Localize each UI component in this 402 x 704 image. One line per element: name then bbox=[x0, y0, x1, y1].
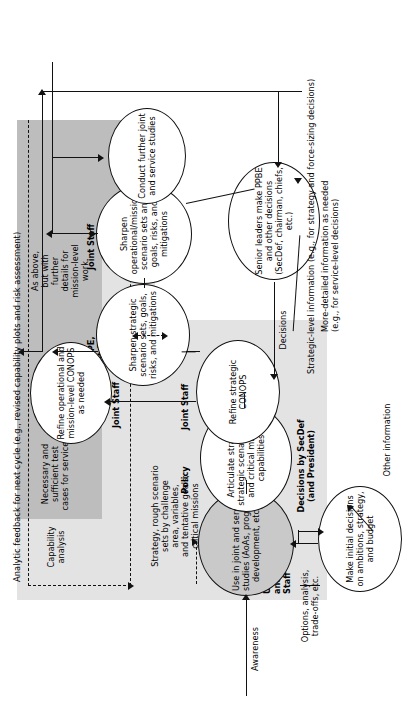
node-refine-operational-conops[interactable]: Refine operational and mission-level CON… bbox=[30, 342, 112, 444]
connector-use-to-articulate bbox=[246, 480, 247, 494]
node-senior-leaders-label: Senior leaders make PPBE and other decis… bbox=[254, 163, 294, 279]
connector-top-rail-drop bbox=[42, 91, 300, 92]
annotation-more-detailed: More-detailed information as needed (e.g… bbox=[320, 108, 340, 332]
node-conduct-further-studies[interactable]: Conduct further joint and service studie… bbox=[108, 108, 186, 204]
connector-decisions-to-use-arrowhead bbox=[290, 540, 296, 548]
annotation-as-above: As above, but with further details for m… bbox=[30, 233, 90, 309]
actor-joint-staff-1: Joint Staff bbox=[180, 380, 190, 434]
annotation-necessary-sufficient: Necessary and sufficient test cases for … bbox=[40, 434, 70, 514]
connector-refine-to-sharpen-v bbox=[186, 351, 200, 352]
connector-sharpen-op-to-strategic bbox=[144, 278, 145, 288]
connector-sharpen-strategic-riser-2 bbox=[24, 351, 42, 352]
annotation-decisions: Decisions bbox=[278, 300, 288, 360]
connector-sharpen-dashed bbox=[138, 335, 164, 336]
node-refine-strategic-conops-label: Refine strategic CONOPS bbox=[228, 341, 248, 443]
connector-conduct-riser bbox=[52, 157, 98, 158]
actor-policy: Policy bbox=[180, 460, 190, 500]
connector-strategy-rough-dashed bbox=[196, 542, 197, 584]
connector-options-to-decisions-arrowhead bbox=[318, 528, 324, 536]
analytic-feedback-arrowhead bbox=[128, 582, 134, 590]
annotation-decisions-by-secdef: Decisions by SecDef (and President) bbox=[296, 408, 316, 524]
connector-sharpen-op-down bbox=[90, 230, 96, 238]
annotation-awareness: Awareness bbox=[250, 614, 260, 684]
actor-joint-staff-2: Joint Staff bbox=[111, 378, 121, 432]
node-refine-operational-conops-label: Refine operational and mission-level CON… bbox=[56, 343, 86, 443]
annotation-strategy-rough-scenario: Strategy, rough scenario sets by challen… bbox=[150, 456, 200, 576]
node-refine-strategic-conops[interactable]: Refine strategic CONOPS bbox=[196, 340, 280, 444]
connector-sharpen-dashed-arrow-down bbox=[162, 332, 168, 340]
annotation-options-analysis: Options, analysis, trade-offs, etc. bbox=[300, 554, 320, 658]
annotation-capability-analysis: Capability analysis bbox=[46, 516, 66, 578]
connector-strategic-level bbox=[296, 91, 302, 92]
connector-sharpen-strategic-riser bbox=[58, 351, 98, 352]
node-conduct-further-studies-label: Conduct further joint and service studie… bbox=[137, 109, 157, 203]
connector-top-rail bbox=[42, 92, 43, 352]
connector-second-rail-arrowhead bbox=[46, 230, 52, 238]
node-make-initial-decisions[interactable]: Make initial decisions on ambitions, str… bbox=[318, 486, 402, 592]
connector-decisions-out-arrowhead bbox=[270, 374, 278, 380]
connector-refine-strategic-branch-arrowhead bbox=[104, 398, 110, 406]
connector-decisions-out bbox=[274, 282, 275, 374]
connector-articulate-to-refine bbox=[244, 394, 245, 408]
connector-more-detailed-arrowhead bbox=[294, 178, 302, 184]
connector-strategic-level-run bbox=[278, 92, 279, 164]
connector-second-rail bbox=[52, 62, 53, 234]
connector-refine-strategic-branch bbox=[110, 401, 196, 402]
connector-options-to-decisions bbox=[298, 531, 320, 532]
annotation-other-information: Other information bbox=[382, 388, 392, 492]
connector-sharpen-dashed-arrow-up bbox=[132, 332, 138, 340]
annotation-strategic-level: Strategic-level information (e.g., for s… bbox=[306, 50, 316, 374]
connector-options-bridge bbox=[298, 530, 299, 544]
connector-second-rail-riser bbox=[52, 233, 90, 234]
actor-joint-staff-3: Joint Staff bbox=[86, 220, 96, 274]
connector-awareness-arrowhead bbox=[242, 594, 250, 600]
connector-conduct-arrowhead bbox=[98, 154, 104, 162]
connector-sharpen-strategic-riser-arrowhead bbox=[52, 348, 58, 356]
connector-sharpen-strategic-riser-2-arrowhead bbox=[18, 348, 24, 356]
connector-awareness bbox=[246, 598, 247, 696]
connector-decisions-to-use bbox=[296, 543, 318, 544]
connector-strategy-rough-arrowhead bbox=[192, 538, 198, 546]
